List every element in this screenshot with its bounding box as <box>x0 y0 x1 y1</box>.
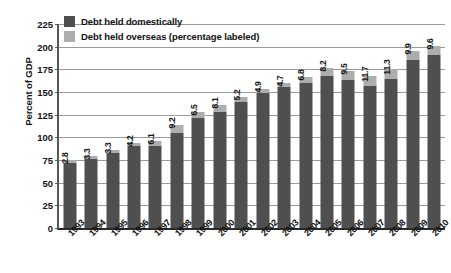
bar-series-group: 2.83.33.34.26.19.26.58.15.24.94.76.88.29… <box>59 24 445 228</box>
y-axis-tick-label: 225 <box>37 19 53 30</box>
bar-slot[interactable]: 6.8 <box>295 24 316 228</box>
bar-value-label: 4.9 <box>253 81 263 92</box>
bar-value-label: 8.1 <box>210 97 220 108</box>
chart-legend: Debt held domestically Debt held oversea… <box>64 15 259 45</box>
plot-area: 0255075100125150175200225 2.83.33.34.26.… <box>57 24 445 230</box>
bar-segment-domestic[interactable] <box>385 79 398 228</box>
stacked-bar[interactable]: 11.7 <box>363 76 376 228</box>
y-axis-tick-label: 50 <box>42 177 53 188</box>
stacked-bar[interactable]: 4.7 <box>278 83 291 228</box>
bar-slot[interactable]: 5.2 <box>231 24 252 228</box>
bar-value-label: 9.2 <box>167 117 177 128</box>
bar-slot[interactable]: 4.7 <box>273 24 294 228</box>
bar-slot[interactable]: 11.7 <box>359 24 380 228</box>
bar-slot[interactable]: 8.1 <box>209 24 230 228</box>
stacked-bar[interactable]: 6.1 <box>149 141 162 228</box>
bar-segment-domestic[interactable] <box>128 146 141 228</box>
bar-slot[interactable]: 11.3 <box>381 24 402 228</box>
bar-segment-domestic[interactable] <box>299 83 312 228</box>
y-axis-tick-label: 0 <box>48 223 53 234</box>
bar-value-label: 2.8 <box>60 153 70 164</box>
bar-value-label: 6.1 <box>145 133 155 144</box>
stacked-bar[interactable]: 9.5 <box>342 71 355 228</box>
stacked-bar[interactable]: 4.2 <box>128 143 141 228</box>
bar-segment-domestic[interactable] <box>85 159 98 228</box>
legend-item-overseas: Debt held overseas (percentage labeled) <box>64 30 259 43</box>
y-axis-title: Percent of GDP <box>23 37 34 147</box>
y-axis-tick-label: 125 <box>37 109 53 120</box>
bar-segment-domestic[interactable] <box>149 146 162 228</box>
stacked-bar[interactable]: 4.9 <box>256 89 269 228</box>
bar-slot[interactable]: 3.3 <box>102 24 123 228</box>
legend-swatch-icon <box>64 31 75 42</box>
stacked-bar[interactable]: 11.3 <box>385 69 398 228</box>
stacked-bar[interactable]: 5.2 <box>235 97 248 228</box>
stacked-bar[interactable]: 6.8 <box>299 77 312 228</box>
bar-segment-domestic[interactable] <box>63 163 76 228</box>
legend-label: Debt held overseas (percentage labeled) <box>81 31 259 42</box>
y-axis-tick-label: 100 <box>37 132 53 143</box>
bar-slot[interactable]: 3.3 <box>80 24 101 228</box>
stacked-bar[interactable]: 3.3 <box>106 150 119 228</box>
stacked-bar[interactable]: 6.5 <box>192 112 205 228</box>
y-axis-tick-mark <box>55 228 59 229</box>
bar-value-label: 11.3 <box>381 59 391 74</box>
bar-segment-domestic[interactable] <box>213 112 226 228</box>
legend-swatch-icon <box>64 16 75 27</box>
bar-slot[interactable]: 2.8 <box>59 24 80 228</box>
bar-segment-domestic[interactable] <box>170 133 183 228</box>
bar-value-label: 9.6 <box>424 39 434 50</box>
legend-label: Debt held domestically <box>81 16 182 27</box>
bar-segment-domestic[interactable] <box>342 80 355 228</box>
bar-value-label: 3.3 <box>81 149 91 160</box>
y-axis-tick-label: 25 <box>42 200 53 211</box>
bar-segment-domestic[interactable] <box>363 86 376 228</box>
y-axis-tick-label: 150 <box>37 87 53 98</box>
stacked-bar[interactable]: 9.2 <box>170 125 183 228</box>
y-axis-tick-label: 175 <box>37 64 53 75</box>
y-axis-tick-label: 200 <box>37 41 53 52</box>
bar-segment-domestic[interactable] <box>406 60 419 228</box>
x-axis-labels: 1993199419951996199719981999200020012002… <box>57 231 443 273</box>
bar-value-label: 4.2 <box>124 135 134 146</box>
stacked-bar[interactable]: 8.1 <box>213 105 226 228</box>
bar-value-label: 9.9 <box>403 43 413 54</box>
bar-segment-domestic[interactable] <box>106 153 119 228</box>
bar-slot[interactable]: 9.2 <box>166 24 187 228</box>
bar-slot[interactable]: 6.5 <box>188 24 209 228</box>
bar-value-label: 8.2 <box>317 61 327 72</box>
bar-segment-domestic[interactable] <box>235 102 248 228</box>
bar-slot[interactable]: 9.9 <box>402 24 423 228</box>
legend-item-domestic: Debt held domestically <box>64 15 259 28</box>
bar-value-label: 6.5 <box>188 105 198 116</box>
bar-segment-domestic[interactable] <box>256 93 269 228</box>
bar-slot[interactable]: 9.5 <box>338 24 359 228</box>
bar-segment-domestic[interactable] <box>278 87 291 228</box>
bar-value-label: 11.7 <box>360 66 370 81</box>
bar-slot[interactable]: 6.1 <box>145 24 166 228</box>
stacked-bar[interactable]: 2.8 <box>63 160 76 228</box>
bar-value-label: 5.2 <box>231 89 241 100</box>
bar-slot[interactable]: 4.9 <box>252 24 273 228</box>
bar-value-label: 9.5 <box>338 64 348 75</box>
bar-segment-domestic[interactable] <box>192 118 205 228</box>
bar-value-label: 4.7 <box>274 75 284 86</box>
bar-value-label: 3.3 <box>103 142 113 153</box>
stacked-bar[interactable]: 9.9 <box>406 51 419 228</box>
bar-slot[interactable]: 9.6 <box>424 24 445 228</box>
stacked-bar[interactable]: 8.2 <box>321 68 334 228</box>
bar-segment-domestic[interactable] <box>321 76 334 228</box>
stacked-bar[interactable]: 3.3 <box>85 156 98 228</box>
bar-value-label: 6.8 <box>296 69 306 80</box>
bar-slot[interactable]: 8.2 <box>316 24 337 228</box>
bar-slot[interactable]: 4.2 <box>123 24 144 228</box>
y-axis-tick-label: 75 <box>42 155 53 166</box>
stacked-bar[interactable]: 9.6 <box>428 46 441 228</box>
bar-segment-domestic[interactable] <box>428 55 441 228</box>
